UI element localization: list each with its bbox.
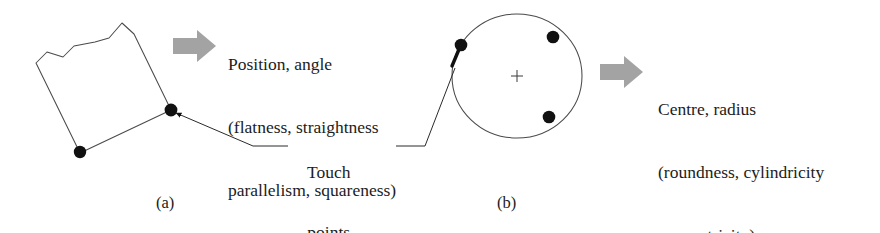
touch-points-label-line1: Touch	[307, 162, 351, 182]
gray-arrow-a	[173, 30, 216, 62]
panel-b-caption: (b)	[497, 193, 516, 213]
touch-point-dot-a2	[165, 104, 178, 117]
panel-b-result-line3: concentricity)	[658, 225, 824, 233]
panel-b-result-text: Centre, radius (roundness, cylindricity …	[658, 57, 824, 233]
touch-points-label-line2: points	[307, 222, 351, 233]
leader-line-right	[396, 68, 455, 146]
panel-b-result-line1: Centre, radius	[658, 99, 824, 120]
panel-b-result-line2: (roundness, cylindricity	[658, 162, 824, 183]
figure-container: Position, angle (flatness, straightness …	[0, 0, 880, 233]
touch-point-dot-b1	[455, 39, 468, 52]
touch-point-dot-a1	[74, 146, 86, 158]
touch-point-dot-b2	[547, 31, 560, 44]
panel-a-result-line1: Position, angle	[228, 54, 396, 75]
touch-points-label: Touch points	[307, 122, 351, 233]
quadrilateral-outline	[36, 23, 171, 153]
panel-a-caption: (a)	[156, 193, 174, 213]
quadrilateral-shape	[36, 23, 171, 153]
touch-point-dot-b3	[543, 111, 556, 124]
gray-arrow-b	[600, 56, 643, 88]
